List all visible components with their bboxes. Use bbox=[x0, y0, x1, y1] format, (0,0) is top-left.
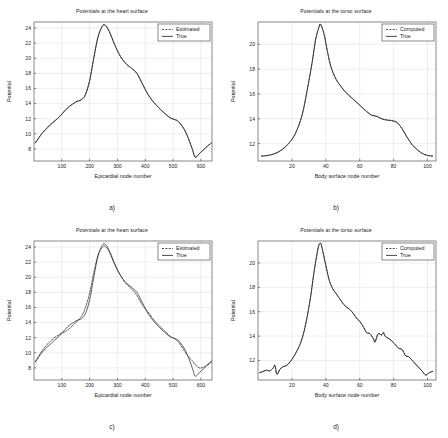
y-tick-label: 14 bbox=[25, 319, 31, 325]
panel-b: Potentials at the torso surface 20406080… bbox=[224, 0, 448, 219]
panel-d: Potentials at the torso surface 20406080… bbox=[224, 219, 448, 438]
y-tick-label: 16 bbox=[249, 91, 255, 97]
y-tick-label: 22 bbox=[25, 259, 31, 265]
y-tick-label: 8 bbox=[28, 146, 31, 152]
x-tick-label: 400 bbox=[141, 163, 150, 169]
x-axis-label: Epicardial node number bbox=[95, 173, 152, 179]
legend-solid-label: True bbox=[176, 33, 187, 39]
y-axis-label: Potential bbox=[6, 300, 12, 321]
x-tick-label: 100 bbox=[423, 163, 432, 169]
legend: EstimatedTrue bbox=[158, 243, 210, 260]
plot-area bbox=[258, 241, 436, 380]
x-tick-label: 80 bbox=[391, 382, 397, 388]
y-tick-label: 18 bbox=[249, 66, 255, 72]
x-tick-label: 20 bbox=[289, 163, 295, 169]
y-tick-label: 18 bbox=[25, 289, 31, 295]
y-tick-label: 10 bbox=[25, 350, 31, 356]
x-tick-label: 300 bbox=[113, 163, 122, 169]
legend: EstimatedTrue bbox=[158, 24, 210, 41]
panel-c: Potentials at the heart surface 10020030… bbox=[0, 219, 224, 438]
y-axis-label: Potential bbox=[230, 300, 236, 321]
x-tick-label: 60 bbox=[357, 163, 363, 169]
y-tick-label: 10 bbox=[25, 131, 31, 137]
figure-four-panel-potentials: Potentials at the heart surface 10020030… bbox=[0, 0, 448, 438]
plot-area bbox=[34, 241, 212, 380]
legend-solid-label: True bbox=[176, 252, 187, 258]
y-tick-label: 14 bbox=[25, 100, 31, 106]
plot-area bbox=[34, 22, 212, 161]
y-tick-label: 22 bbox=[25, 40, 31, 46]
panel-c-svg: 10020030040050060081012141618202224Epica… bbox=[0, 219, 224, 438]
x-tick-label: 40 bbox=[323, 163, 329, 169]
x-tick-label: 80 bbox=[391, 163, 397, 169]
y-tick-label: 18 bbox=[25, 70, 31, 76]
y-tick-label: 20 bbox=[249, 41, 255, 47]
x-tick-label: 500 bbox=[169, 163, 178, 169]
legend-dashed-label: Computed bbox=[400, 245, 424, 251]
x-axis-label: Body surface node number bbox=[315, 392, 380, 398]
y-tick-label: 12 bbox=[25, 335, 31, 341]
panel-d-caption: d) bbox=[224, 423, 448, 430]
y-tick-label: 16 bbox=[25, 85, 31, 91]
x-tick-label: 400 bbox=[141, 382, 150, 388]
x-tick-label: 300 bbox=[113, 382, 122, 388]
x-tick-label: 200 bbox=[85, 163, 94, 169]
legend: ComputedTrue bbox=[382, 24, 434, 41]
panel-b-svg: 204060801001214161820Body surface node n… bbox=[224, 0, 448, 219]
y-tick-label: 20 bbox=[25, 274, 31, 280]
y-tick-label: 24 bbox=[25, 25, 31, 31]
y-axis-label: Potential bbox=[6, 81, 12, 102]
y-axis-label: Potential bbox=[230, 81, 236, 102]
y-tick-label: 14 bbox=[249, 116, 255, 122]
legend-solid-label: True bbox=[400, 252, 411, 258]
legend-dashed-label: Estimated bbox=[176, 245, 200, 251]
y-tick-label: 8 bbox=[28, 365, 31, 371]
panel-b-caption: b) bbox=[224, 204, 448, 211]
x-tick-label: 100 bbox=[423, 382, 432, 388]
x-tick-label: 100 bbox=[58, 163, 67, 169]
x-tick-label: 600 bbox=[197, 382, 206, 388]
y-tick-label: 16 bbox=[249, 309, 255, 315]
legend-solid-label: True bbox=[400, 33, 411, 39]
panel-a: Potentials at the heart surface 10020030… bbox=[0, 0, 224, 219]
y-tick-label: 12 bbox=[249, 357, 255, 363]
x-tick-label: 600 bbox=[197, 163, 206, 169]
y-tick-label: 16 bbox=[25, 304, 31, 310]
x-axis-label: Body surface node number bbox=[315, 173, 380, 179]
x-tick-label: 500 bbox=[169, 382, 178, 388]
legend-dashed-label: Estimated bbox=[176, 26, 200, 32]
panel-a-caption: a) bbox=[0, 204, 224, 211]
y-tick-label: 18 bbox=[249, 284, 255, 290]
panel-c-caption: c) bbox=[0, 423, 224, 430]
y-tick-label: 20 bbox=[249, 260, 255, 266]
legend-dashed-label: Computed bbox=[400, 26, 424, 32]
x-tick-label: 20 bbox=[289, 382, 295, 388]
y-tick-label: 20 bbox=[25, 55, 31, 61]
y-tick-label: 12 bbox=[25, 116, 31, 122]
x-tick-label: 100 bbox=[58, 382, 67, 388]
y-tick-label: 12 bbox=[249, 141, 255, 147]
x-tick-label: 60 bbox=[357, 382, 363, 388]
legend: ComputedTrue bbox=[382, 243, 434, 260]
x-axis-label: Epicardial node number bbox=[95, 392, 152, 398]
y-tick-label: 24 bbox=[25, 244, 31, 250]
x-tick-label: 40 bbox=[323, 382, 329, 388]
panel-d-svg: 204060801001214161820Body surface node n… bbox=[224, 219, 448, 438]
panel-a-svg: 10020030040050060081012141618202224Epica… bbox=[0, 0, 224, 219]
y-tick-label: 14 bbox=[249, 333, 255, 339]
x-tick-label: 200 bbox=[85, 382, 94, 388]
